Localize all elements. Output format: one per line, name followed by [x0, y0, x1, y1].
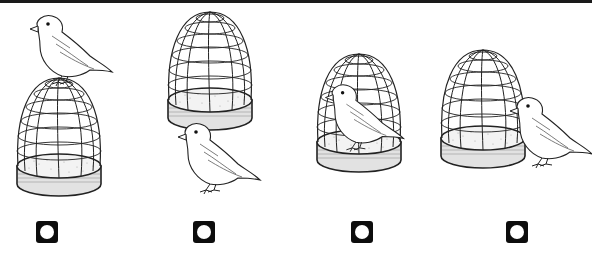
cage-with-bird-inside-illustration — [296, 0, 444, 210]
radio-dot-icon — [197, 225, 211, 239]
cage-icon — [168, 12, 252, 130]
option-marker-4[interactable]: bird beside cage — [506, 221, 528, 243]
option-marker-1[interactable]: bird on top of cage — [36, 221, 58, 243]
bird-icon — [30, 16, 112, 86]
cage-with-bird-on-top-illustration — [0, 0, 148, 210]
option-panel-2 — [148, 0, 296, 260]
option-panel-1 — [0, 0, 148, 260]
cage-with-bird-under-illustration — [148, 0, 296, 210]
cage-icon — [441, 50, 525, 168]
cage-icon — [17, 78, 101, 196]
radio-dot-icon — [355, 225, 369, 239]
option-label: bird inside cage — [351, 221, 352, 222]
radio-dot-icon — [510, 225, 524, 239]
option-label: bird beside cage — [506, 221, 507, 222]
radio-dot-icon — [40, 225, 54, 239]
option-label: bird on top of cage — [36, 221, 37, 222]
option-marker-3[interactable]: bird inside cage — [351, 221, 373, 243]
option-label: bird under cage — [193, 221, 194, 222]
bird-icon — [178, 124, 260, 194]
option-marker-2[interactable]: bird under cage — [193, 221, 215, 243]
cage-with-bird-beside-illustration — [430, 0, 592, 210]
